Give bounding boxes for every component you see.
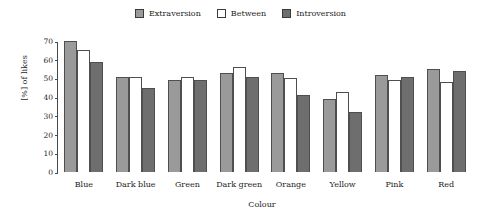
bar-group <box>58 36 110 172</box>
y-axis-tick-label: 30 <box>43 111 53 123</box>
bar-group <box>110 36 162 172</box>
y-axis-tick: 50 <box>43 73 58 85</box>
plot-area <box>58 36 472 172</box>
bar[interactable] <box>271 73 284 172</box>
y-axis-tick: 70 <box>43 36 58 48</box>
x-axis-tick-label: Green <box>162 180 214 190</box>
bar-group <box>420 36 472 172</box>
bar-group <box>369 36 421 172</box>
bar[interactable] <box>220 73 233 172</box>
x-axis-tick-labels: BlueDark blueGreenDark greenOrangeYellow… <box>58 180 472 190</box>
bar[interactable] <box>129 77 142 172</box>
bar[interactable] <box>64 41 77 172</box>
y-axis-title: [%] of likes <box>18 8 32 148</box>
bar[interactable] <box>246 77 259 172</box>
bar[interactable] <box>440 82 453 172</box>
y-axis-tick-label: 70 <box>43 36 53 48</box>
bar[interactable] <box>194 80 207 172</box>
y-axis-tick: 60 <box>43 55 58 67</box>
bar[interactable] <box>349 112 362 172</box>
y-axis-tick: 40 <box>43 92 58 104</box>
x-axis-tick-label: Dark green <box>213 180 265 190</box>
bar[interactable] <box>388 80 401 172</box>
legend-label: Between <box>231 9 266 18</box>
bar[interactable] <box>284 78 297 172</box>
bar[interactable] <box>168 80 181 172</box>
bar-group <box>213 36 265 172</box>
bar-chart: ExtraversionBetweenIntroversion [%] of l… <box>0 0 481 220</box>
bar[interactable] <box>116 77 129 172</box>
y-axis-tick: 10 <box>43 148 58 160</box>
bar[interactable] <box>427 69 440 172</box>
bar[interactable] <box>142 88 155 172</box>
x-axis-tick-label: Pink <box>369 180 421 190</box>
bar-group <box>265 36 317 172</box>
legend-swatch-icon <box>217 9 226 18</box>
bar[interactable] <box>323 99 336 172</box>
legend-swatch-icon <box>135 9 144 18</box>
legend-label: Extraversion <box>149 9 201 18</box>
bar[interactable] <box>77 50 90 172</box>
y-axis-tick-label: 0 <box>48 167 53 179</box>
y-axis-tick-label: 60 <box>43 55 53 67</box>
bar[interactable] <box>233 67 246 172</box>
x-axis-tick-label: Orange <box>265 180 317 190</box>
legend-entry[interactable]: Introversion <box>282 9 346 18</box>
bar[interactable] <box>90 62 103 172</box>
x-axis-title: Colour <box>52 200 472 210</box>
legend-swatch-icon <box>282 9 291 18</box>
bar[interactable] <box>336 92 349 172</box>
bar-group <box>162 36 214 172</box>
bar[interactable] <box>401 77 414 172</box>
legend-label: Introversion <box>296 9 346 18</box>
y-axis-tick-label: 40 <box>43 92 53 104</box>
legend-entry[interactable]: Extraversion <box>135 9 201 18</box>
bar-groups <box>58 36 472 172</box>
y-axis-tick: 0 <box>48 167 58 179</box>
bar[interactable] <box>453 71 466 172</box>
bar[interactable] <box>375 75 388 172</box>
y-axis-tick-mark <box>55 173 58 174</box>
y-axis-tick: 20 <box>43 130 58 142</box>
y-axis-tick-label: 10 <box>43 148 53 160</box>
y-axis-tick: 30 <box>43 111 58 123</box>
x-axis-tick-label: Blue <box>58 180 110 190</box>
y-axis-tick-label: 50 <box>43 73 53 85</box>
x-axis-tick-label: Red <box>420 180 472 190</box>
legend-entry[interactable]: Between <box>217 9 266 18</box>
y-axis-tick-label: 20 <box>43 130 53 142</box>
x-axis-tick-label: Dark blue <box>110 180 162 190</box>
bar-group <box>317 36 369 172</box>
bar[interactable] <box>297 95 310 172</box>
chart-legend: ExtraversionBetweenIntroversion <box>0 9 481 18</box>
y-axis: 706050403020100 <box>46 36 58 176</box>
bar[interactable] <box>181 77 194 172</box>
x-axis-tick-label: Yellow <box>317 180 369 190</box>
